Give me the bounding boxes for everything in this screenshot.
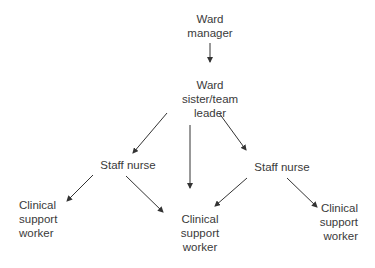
node-label-line: Ward: [170, 12, 250, 26]
node-label-line: manager: [170, 26, 250, 40]
node-label-line: Ward: [165, 78, 255, 92]
node-label-line: worker: [19, 226, 89, 240]
node-csw-right: Clinical support worker: [288, 201, 358, 243]
node-ward-sister-team-leader: Ward sister/team leader: [165, 78, 255, 120]
node-csw-middle: Clinical support worker: [165, 212, 235, 254]
node-label-line: worker: [288, 229, 358, 243]
node-label-line: Clinical: [19, 198, 89, 212]
node-label-line: support: [19, 212, 89, 226]
arrow-staff-right-to-csw-middle: [215, 178, 247, 206]
node-staff-nurse-right: Staff nurse: [242, 160, 322, 174]
node-label-line: Staff nurse: [242, 160, 322, 174]
arrow-staff-left-to-csw-middle: [126, 176, 163, 212]
node-csw-left: Clinical support worker: [19, 198, 89, 240]
node-label-line: sister/team: [165, 92, 255, 106]
node-label-line: leader: [165, 106, 255, 120]
arrow-sister-to-staff-left: [133, 113, 167, 153]
node-label-line: Staff nurse: [88, 158, 168, 172]
node-label-line: Clinical: [165, 212, 235, 226]
node-label-line: support: [165, 226, 235, 240]
node-label-line: support: [288, 215, 358, 229]
node-staff-nurse-left: Staff nurse: [88, 158, 168, 172]
node-label-line: Clinical: [288, 201, 358, 215]
node-label-line: worker: [165, 240, 235, 254]
node-ward-manager: Ward manager: [170, 12, 250, 40]
